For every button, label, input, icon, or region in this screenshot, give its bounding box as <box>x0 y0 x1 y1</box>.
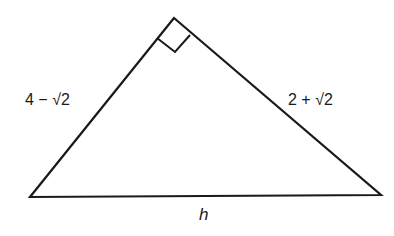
right-angle-marker <box>157 35 190 52</box>
triangle-svg <box>0 0 394 236</box>
left-leg-label: 4 − √2 <box>25 92 70 108</box>
triangle-diagram: 4 − √2 2 + √2 h <box>0 0 394 236</box>
hypotenuse-label: h <box>199 206 208 223</box>
right-leg-label: 2 + √2 <box>288 92 333 108</box>
